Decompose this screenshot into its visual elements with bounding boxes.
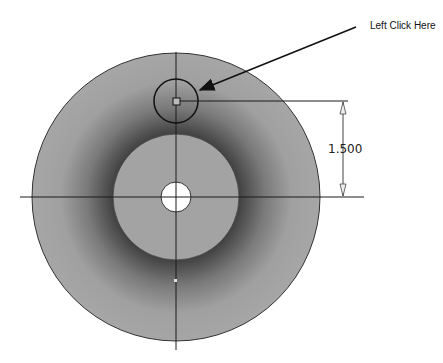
sketch-circle-center-point[interactable] bbox=[173, 98, 180, 105]
cad-drawing-canvas[interactable] bbox=[0, 0, 443, 363]
callout-label: Left Click Here bbox=[370, 20, 436, 31]
construction-point[interactable] bbox=[174, 279, 177, 282]
dimension-arrow-up-icon bbox=[340, 102, 346, 114]
callout-arrow bbox=[200, 27, 356, 90]
dimension-value[interactable]: 1.500 bbox=[328, 142, 362, 156]
dimension-arrow-down-icon bbox=[340, 184, 346, 196]
